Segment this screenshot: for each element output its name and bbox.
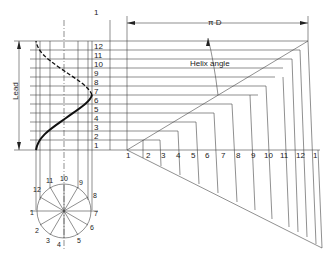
svg-text:5: 5 <box>94 105 99 114</box>
svg-text:6: 6 <box>94 96 99 105</box>
svg-text:9: 9 <box>79 179 83 186</box>
svg-text:3: 3 <box>161 151 166 160</box>
svg-text:2: 2 <box>146 151 151 160</box>
svg-text:1: 1 <box>94 8 99 17</box>
svg-text:8: 8 <box>93 192 97 199</box>
svg-text:4: 4 <box>57 241 61 248</box>
svg-text:10: 10 <box>264 151 273 160</box>
svg-text:5: 5 <box>77 237 81 244</box>
helix-angle-label: Helix angle <box>190 59 230 68</box>
svg-text:8: 8 <box>236 151 241 160</box>
svg-text:4: 4 <box>176 151 181 160</box>
svg-text:2: 2 <box>94 132 99 141</box>
svg-text:12: 12 <box>296 151 305 160</box>
svg-text:6: 6 <box>90 224 94 231</box>
pi-d-label: π D <box>208 18 222 27</box>
svg-text:7: 7 <box>94 210 98 217</box>
svg-text:1: 1 <box>94 141 99 150</box>
svg-text:7: 7 <box>221 151 226 160</box>
svg-text:1: 1 <box>126 151 131 160</box>
svg-text:1: 1 <box>313 151 318 160</box>
svg-text:11: 11 <box>280 151 289 160</box>
helix-diagram: π D Lead Helix angle 1 12 11 10 9 8 7 6 … <box>0 0 325 257</box>
svg-text:8: 8 <box>94 78 99 87</box>
left-scale: 1 12 11 10 9 8 7 6 5 4 3 2 1 <box>94 8 103 150</box>
svg-text:9: 9 <box>94 69 99 78</box>
svg-text:5: 5 <box>191 151 196 160</box>
lead-label: Lead <box>11 82 20 100</box>
svg-text:3: 3 <box>94 123 99 132</box>
svg-text:3: 3 <box>46 237 50 244</box>
svg-text:1: 1 <box>30 209 34 216</box>
svg-text:9: 9 <box>251 151 256 160</box>
svg-text:12: 12 <box>33 186 41 193</box>
svg-text:7: 7 <box>94 87 99 96</box>
svg-text:11: 11 <box>94 51 103 60</box>
svg-text:6: 6 <box>205 151 210 160</box>
bottom-scale: 1 2 3 4 5 6 7 8 9 10 11 12 1 <box>126 151 318 160</box>
svg-text:12: 12 <box>94 42 103 51</box>
svg-text:2: 2 <box>35 227 39 234</box>
svg-text:11: 11 <box>46 177 53 184</box>
svg-text:4: 4 <box>94 114 99 123</box>
svg-text:10: 10 <box>94 60 103 69</box>
svg-text:10: 10 <box>60 175 68 182</box>
